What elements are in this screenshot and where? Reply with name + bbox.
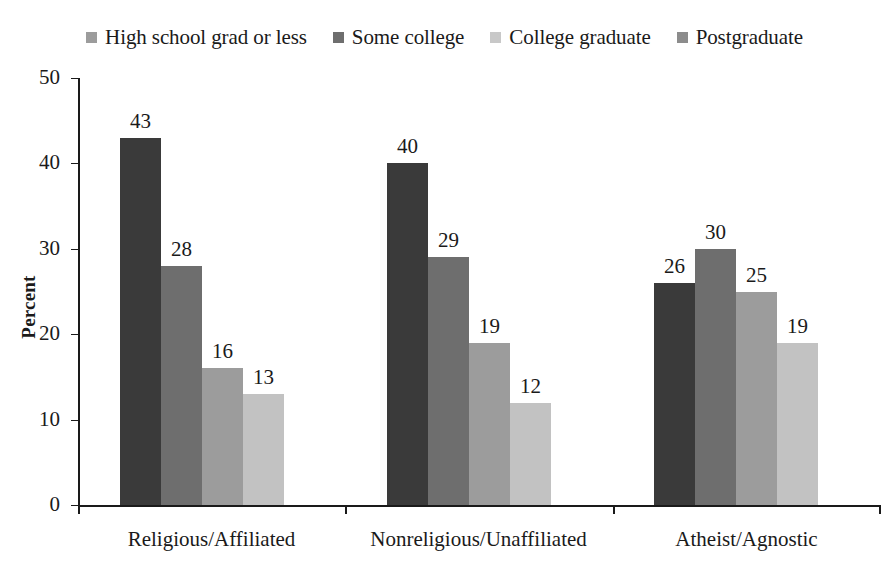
y-axis-tick-label: 20: [14, 323, 60, 344]
y-axis-tick-label: 10: [14, 409, 60, 430]
y-axis-tick-mark: [71, 163, 78, 164]
y-axis-tick-mark: [71, 505, 78, 506]
bar-value-label: 30: [695, 222, 736, 243]
bar-value-label: 19: [777, 316, 818, 337]
y-axis-tick-label: 40: [14, 152, 60, 173]
bar: [387, 163, 428, 505]
bar-value-label: 13: [243, 367, 284, 388]
bar-value-label: 25: [736, 265, 777, 286]
bar-value-label: 40: [387, 136, 428, 157]
y-axis-tick-mark: [71, 78, 78, 79]
y-axis-tick-mark: [71, 249, 78, 250]
bar: [469, 343, 510, 505]
bar: [161, 266, 202, 505]
bar: [243, 394, 284, 505]
bar-value-label: 43: [120, 111, 161, 132]
x-axis-tick-mark: [78, 505, 80, 514]
x-axis-tick-mark: [879, 505, 881, 514]
bar-value-label: 28: [161, 239, 202, 260]
bar: [202, 368, 243, 505]
bar: [695, 249, 736, 505]
x-axis-category-label: Atheist/Agnostic: [613, 529, 880, 550]
x-axis-line: [78, 505, 880, 507]
bar-value-label: 12: [510, 376, 551, 397]
y-axis-line: [78, 78, 80, 505]
bar: [777, 343, 818, 505]
y-axis-tick-mark: [71, 420, 78, 421]
bar: [510, 403, 551, 505]
y-axis-tick-mark: [71, 334, 78, 335]
x-axis-tick-mark: [613, 505, 615, 514]
bar-value-label: 16: [202, 341, 243, 362]
bar: [120, 138, 161, 505]
x-axis-category-label: Nonreligious/Unaffiliated: [345, 529, 612, 550]
y-axis-tick-label: 0: [14, 494, 60, 515]
bar-value-label: 26: [654, 256, 695, 277]
bar-value-label: 19: [469, 316, 510, 337]
y-axis-tick-label: 30: [14, 238, 60, 259]
bar: [428, 257, 469, 505]
bar: [736, 292, 777, 505]
y-axis-tick-label: 50: [14, 67, 60, 88]
x-axis-category-label: Religious/Affiliated: [78, 529, 345, 550]
bar-value-label: 29: [428, 230, 469, 251]
bar: [654, 283, 695, 505]
plot-area: Percent 0102030405043281613Religious/Aff…: [0, 0, 889, 575]
y-axis-title: Percent: [18, 247, 40, 367]
x-axis-tick-mark: [345, 505, 347, 514]
chart-figure: High school grad or lessSome collegeColl…: [0, 0, 889, 575]
